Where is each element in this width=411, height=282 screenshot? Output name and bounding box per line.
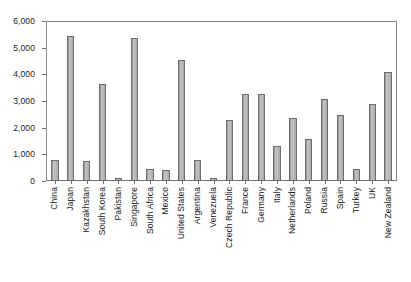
x-tick-label: Russia	[320, 187, 329, 214]
bar-column[interactable]	[242, 21, 249, 181]
bar-column[interactable]	[67, 21, 74, 181]
bar-column[interactable]	[226, 21, 233, 181]
x-tick-mark	[55, 181, 56, 184]
y-tick-mark	[42, 21, 46, 22]
bar-column[interactable]	[258, 21, 265, 181]
x-tick-label: Mexico	[161, 187, 170, 215]
x-tick-label: China	[50, 187, 59, 210]
x-tick-mark	[166, 181, 167, 184]
x-tick-label: Netherlands	[288, 187, 297, 234]
y-tick-label: 5,000	[13, 43, 35, 53]
bar-column[interactable]	[131, 21, 138, 181]
bar-column[interactable]	[115, 21, 122, 181]
bar-column[interactable]	[178, 21, 185, 181]
x-tick-label: Kazakhstan	[82, 187, 91, 232]
bar-column[interactable]	[305, 21, 312, 181]
x-tick-label: Singapore	[130, 187, 139, 227]
y-tick-mark	[42, 181, 46, 182]
bar-column[interactable]	[99, 21, 106, 181]
x-tick-mark	[150, 181, 151, 184]
bar[interactable]	[146, 169, 153, 181]
bar[interactable]	[305, 139, 312, 181]
y-tick-label: 1,000	[13, 149, 35, 159]
bar[interactable]	[369, 104, 376, 181]
x-tick-label: France	[241, 187, 250, 214]
y-tick-mark	[42, 48, 46, 49]
x-tick-mark	[118, 181, 119, 184]
x-tick-mark	[356, 181, 357, 184]
bar-column[interactable]	[210, 21, 217, 181]
x-tick-label: Pakistan	[114, 187, 123, 220]
y-axis: 6,0005,0004,0003,0002,0001,0000	[0, 0, 43, 282]
bar[interactable]	[83, 161, 90, 181]
bar-column[interactable]	[194, 21, 201, 181]
bar-column[interactable]	[337, 21, 344, 181]
bar-column[interactable]	[51, 21, 58, 181]
bar[interactable]	[99, 84, 106, 181]
bar[interactable]	[226, 120, 233, 181]
bar[interactable]	[384, 72, 391, 181]
bar[interactable]	[337, 115, 344, 181]
x-tick-label: Venezuela	[209, 187, 218, 228]
x-tick-mark	[229, 181, 230, 184]
x-tick-mark	[198, 181, 199, 184]
x-axis: ChinaJapanKazakhstanSouth KoreaPakistanS…	[47, 184, 396, 280]
bar-column[interactable]	[384, 21, 391, 181]
bar-column[interactable]	[353, 21, 360, 181]
x-tick-mark	[103, 181, 104, 184]
bar[interactable]	[289, 118, 296, 181]
y-tick-mark	[42, 101, 46, 102]
bar[interactable]	[131, 38, 138, 181]
bar-column[interactable]	[369, 21, 376, 181]
bars-layer	[47, 21, 396, 181]
y-tick-mark	[42, 154, 46, 155]
bar-column[interactable]	[162, 21, 169, 181]
y-tick-label: 2,000	[13, 123, 35, 133]
bar-column[interactable]	[321, 21, 328, 181]
y-tick-label: 6,000	[13, 16, 35, 26]
x-tick-mark	[134, 181, 135, 184]
bar-column[interactable]	[146, 21, 153, 181]
x-tick-mark	[293, 181, 294, 184]
x-tick-label: Czech Republic	[225, 187, 234, 248]
x-tick-label: Germany	[257, 187, 266, 223]
bar[interactable]	[353, 169, 360, 181]
x-tick-label: UK	[368, 187, 377, 199]
y-tick-mark	[42, 128, 46, 129]
y-tick-label: 4,000	[13, 69, 35, 79]
x-tick-mark	[261, 181, 262, 184]
bar[interactable]	[321, 99, 328, 181]
bar[interactable]	[162, 170, 169, 181]
x-tick-label: United States	[177, 187, 186, 239]
x-tick-mark	[325, 181, 326, 184]
x-tick-label: Poland	[304, 187, 313, 214]
x-tick-mark	[309, 181, 310, 184]
x-tick-label: Argentina	[193, 187, 202, 224]
bar[interactable]	[194, 160, 201, 181]
y-tick-mark	[42, 74, 46, 75]
x-tick-mark	[388, 181, 389, 184]
bar[interactable]	[51, 160, 58, 181]
x-tick-label: South Africa	[146, 187, 155, 234]
bar[interactable]	[242, 94, 249, 181]
bar-column[interactable]	[273, 21, 280, 181]
bar[interactable]	[258, 94, 265, 181]
bar-chart: 6,0005,0004,0003,0002,0001,0000 ChinaJap…	[0, 0, 411, 282]
x-tick-label: Italy	[273, 187, 282, 203]
x-tick-mark	[277, 181, 278, 184]
bar[interactable]	[67, 36, 74, 181]
x-tick-label: Spain	[336, 187, 345, 209]
x-tick-label: New Zealand	[384, 187, 393, 238]
x-tick-mark	[87, 181, 88, 184]
x-tick-mark	[245, 181, 246, 184]
bar[interactable]	[178, 60, 185, 181]
y-tick-label: 3,000	[13, 96, 35, 106]
x-tick-label: Japan	[66, 187, 75, 211]
x-tick-label: South Korea	[98, 187, 107, 235]
x-tick-mark	[340, 181, 341, 184]
bar-column[interactable]	[83, 21, 90, 181]
bar-column[interactable]	[289, 21, 296, 181]
x-tick-label: Turkey	[352, 187, 361, 213]
bar[interactable]	[273, 146, 280, 181]
x-tick-mark	[372, 181, 373, 184]
